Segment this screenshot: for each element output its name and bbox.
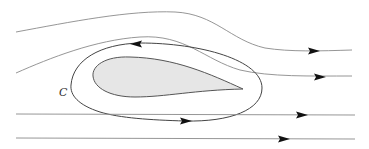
airfoil-body bbox=[93, 57, 243, 97]
contour-label: C bbox=[59, 86, 68, 99]
airfoil-flow-diagram: C bbox=[0, 0, 369, 149]
streamline-1 bbox=[16, 12, 352, 51]
streamline-2-arrow-icon bbox=[314, 74, 326, 81]
streamline-4 bbox=[16, 138, 355, 139]
contour-top-arrow-icon bbox=[130, 41, 142, 48]
